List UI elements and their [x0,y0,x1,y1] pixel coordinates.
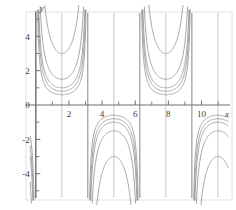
y-tick-label: 2 [25,66,30,76]
y-tick-label: 4 [25,32,30,42]
y-tick-label: 0 [25,100,30,110]
plot-figure: 246810420-2-4yx [0,0,236,210]
x-tick-label: 2 [67,109,72,119]
y-tick-label: -2 [22,135,30,145]
plot-canvas: 246810420-2-4yx [0,0,236,210]
x-tick-label: 4 [100,109,105,119]
x-tick-label: 6 [133,109,138,119]
x-tick-label: 10 [197,109,207,119]
x-axis-label: x [224,109,229,119]
y-tick-label: -4 [22,169,30,179]
x-tick-label: 8 [166,109,171,119]
y-axis-label: y [39,3,44,13]
